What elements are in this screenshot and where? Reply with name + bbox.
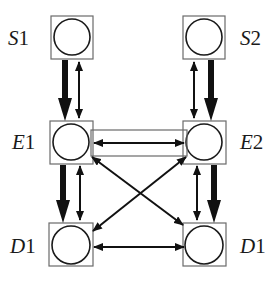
node-s2-circle — [186, 19, 222, 55]
edge-s1-e1-thick — [58, 60, 72, 121]
node-s1 — [51, 16, 93, 59]
edge-e2-d1-thick — [207, 165, 221, 223]
node-d1-right-circle — [185, 226, 223, 264]
label-s2: S2 — [240, 26, 261, 50]
node-e2-circle — [186, 124, 222, 160]
label-e1: E1 — [11, 130, 35, 154]
label-d1-left: D1 — [9, 234, 36, 258]
label-d1-right: D1 — [239, 234, 266, 258]
node-d1-right — [183, 223, 226, 266]
node-e2 — [183, 121, 226, 164]
network-diagram: S1 S2 E1 E2 D1 D1 — [0, 0, 277, 281]
edge-e1-d1-thick — [56, 165, 70, 223]
node-e1-circle — [53, 124, 89, 160]
edge-s2-e2-thick — [204, 60, 218, 121]
node-s2 — [183, 16, 225, 59]
label-s1: S1 — [8, 26, 29, 50]
node-d1-left-circle — [52, 226, 90, 264]
node-e1 — [50, 121, 93, 164]
node-s1-circle — [54, 19, 90, 55]
node-d1-left — [49, 223, 93, 266]
edge-e1-d1-right — [92, 157, 183, 225]
label-e2: E2 — [239, 130, 263, 154]
